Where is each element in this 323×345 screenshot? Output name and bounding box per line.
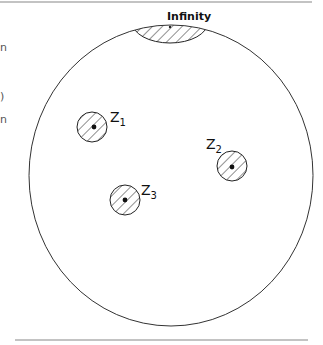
point-z3: Z3 (110, 182, 157, 215)
svg-text:Z3: Z3 (141, 182, 157, 201)
riemann-sphere-diagram: Infinity Z1 Z2 Z3 (0, 0, 323, 345)
point-z1: Z1 (77, 109, 126, 142)
svg-text:Z2: Z2 (206, 136, 222, 155)
sphere-outline (29, 25, 313, 326)
infinity-label: Infinity (167, 10, 211, 23)
infinity-point (169, 26, 171, 28)
svg-text:Z1: Z1 (110, 109, 126, 128)
point-z2: Z2 (206, 136, 247, 181)
